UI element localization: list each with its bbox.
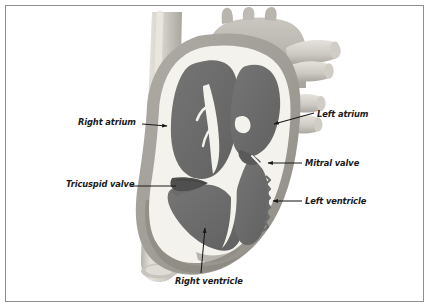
label-right-ventricle: Right ventricle [175, 277, 243, 285]
label-mitral-valve: Mitral valve [305, 159, 359, 167]
label-left-atrium: Left atrium [317, 110, 368, 118]
heart-anatomy-figure: Right atrium Tricuspid valve Right ventr… [0, 0, 430, 308]
label-right-atrium: Right atrium [78, 118, 136, 126]
label-left-ventricle: Left ventricle [305, 197, 366, 205]
label-tricuspid-valve: Tricuspid valve [66, 180, 134, 188]
heart-illustration [0, 0, 430, 308]
